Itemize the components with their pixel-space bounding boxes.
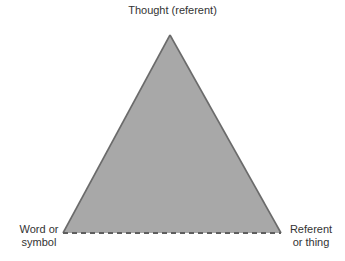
node-label-word-or-symbol: Word or symbol xyxy=(18,223,60,249)
node-label-referent-or-thing: Referent or thing xyxy=(286,223,336,249)
node-label-thought: Thought (referent) xyxy=(0,4,345,17)
node-label-referent-line1: Referent xyxy=(286,223,336,236)
triangle-fill xyxy=(63,35,281,233)
node-label-referent-line2: or thing xyxy=(286,236,336,249)
node-label-word-line1: Word or xyxy=(18,223,60,236)
node-label-word-line2: symbol xyxy=(18,236,60,249)
semiotic-triangle xyxy=(0,0,345,261)
